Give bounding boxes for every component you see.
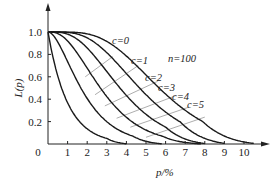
y-tick-label: 0.6 (28, 71, 42, 83)
y-axis-title: L(p) (12, 78, 25, 98)
oc-curves (48, 32, 254, 144)
oc-curve-c2 (48, 32, 201, 144)
curve-label: c=5 (187, 99, 204, 110)
oc-curve-c3 (48, 32, 205, 144)
curve-label: c=1 (131, 55, 148, 66)
connector-line (105, 81, 158, 106)
x-tick-label: 9 (222, 146, 228, 158)
x-tick-label: 2 (84, 146, 90, 158)
x-tick-label: 5 (143, 146, 149, 158)
sample-size-annotation: n=100 (168, 53, 197, 64)
x-tick-label: 4 (124, 146, 130, 158)
x-axis (48, 142, 270, 147)
x-axis-arrow-icon (261, 142, 270, 147)
x-tick-label: 1 (65, 146, 71, 158)
oc-curve-chart: 12345678910 0.20.40.60.81.0 c=0c=1c=2c=3… (0, 0, 278, 183)
x-tick-label: 7 (182, 146, 188, 158)
y-tick-label: 0.8 (28, 48, 42, 60)
y-tick-label: 0.4 (28, 93, 42, 105)
x-tick-label: 3 (104, 146, 110, 158)
y-axis-arrow-icon (46, 3, 51, 11)
curve-label: c=0 (112, 35, 130, 46)
origin-label: 0 (35, 146, 41, 158)
x-tick-label: 8 (202, 146, 208, 158)
x-axis-title: p/% (155, 166, 174, 178)
y-axis (46, 3, 51, 144)
x-tick-label: 10 (239, 146, 251, 158)
oc-curve-c5 (48, 32, 254, 143)
y-tick-label: 0.2 (28, 116, 42, 128)
y-tick-label: 1.0 (28, 26, 42, 38)
x-tick-label: 6 (163, 146, 169, 158)
